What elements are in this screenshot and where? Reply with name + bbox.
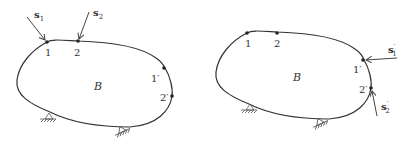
diagram-canvas: 1 2 1′ 2′ B s1 s2	[0, 0, 411, 145]
point-2	[76, 39, 80, 43]
support-pin-bottom	[113, 123, 131, 138]
point-1	[45, 40, 49, 44]
label-point-2-prime: 2′	[359, 84, 368, 95]
figure-right: 1 2 1′ 2′ B s′1 s′2	[216, 31, 397, 130]
label-point-1: 1	[45, 47, 51, 58]
force-arrow-s2	[79, 12, 89, 39]
point-1-prime	[162, 66, 166, 70]
force-arrow-s2-prime	[372, 91, 377, 116]
figure-left: 1 2 1′ 2′ B s1 s2	[17, 7, 174, 138]
point-2-prime	[170, 94, 174, 98]
body-label: B	[93, 80, 102, 93]
support-pin-bottom	[311, 115, 329, 130]
force-label-s1-prime: s′1	[388, 43, 397, 58]
point-1-prime	[361, 58, 365, 62]
point-1	[245, 31, 249, 35]
force-label-s2: s2	[93, 7, 103, 21]
label-point-1: 1	[245, 38, 251, 49]
label-point-2: 2	[274, 38, 280, 49]
force-arrow-s1-prime	[366, 58, 397, 60]
force-label-s1: s1	[34, 9, 44, 23]
label-point-1-prime: 1′	[151, 73, 160, 84]
force-label-s2-prime: s′2	[381, 100, 390, 115]
body-label: B	[292, 71, 301, 84]
label-point-2: 2	[74, 47, 80, 58]
point-2	[275, 31, 279, 35]
label-point-1-prime: 1′	[353, 64, 362, 75]
support-pin-left	[241, 104, 257, 113]
point-2-prime	[369, 86, 373, 90]
label-point-2-prime: 2′	[160, 92, 169, 103]
